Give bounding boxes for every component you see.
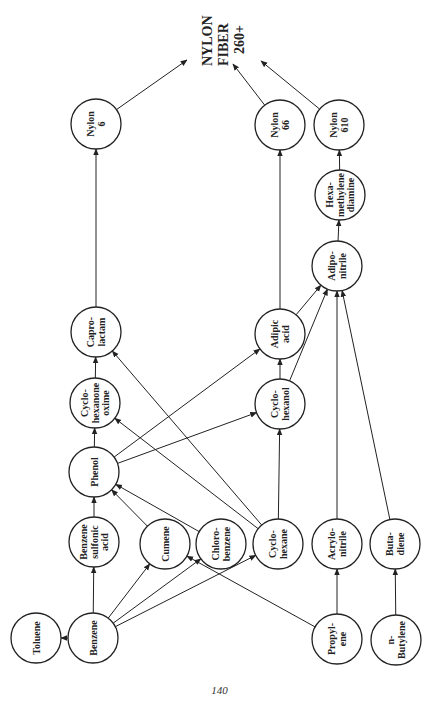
node-label-line: Nylon (328, 112, 339, 138)
node-label-line: Benzene (88, 620, 99, 656)
node-label-line: 610 (339, 118, 350, 133)
node-nylon610: Nylon610 (314, 100, 364, 150)
node-label-line: Cyclo- (267, 530, 278, 558)
title-line-3: 260+ (232, 25, 247, 54)
arrow-cyclohexane-to-cyclohexanol (278, 429, 279, 519)
node-phenol: Phenol (69, 447, 119, 497)
node-label-line: 6 (96, 122, 107, 127)
node-cyclohexanoneoxime: Cyclo-hexanoneoxime (70, 378, 120, 428)
node-chlorobenzene: Chloro-benzene (196, 519, 246, 569)
node-label-line: Toluene (31, 621, 42, 655)
node-cyclohexanol: Cyclo-hexanol (255, 379, 305, 429)
node-acrylonitrile: Acrylo-nitrile (312, 519, 362, 569)
node-label-line: Propyl- (326, 623, 337, 655)
node-label-line: nitrile (337, 530, 348, 557)
node-label-line: Benzene (78, 524, 89, 560)
node-label-line: hexanol (280, 387, 291, 421)
node-label-line: Capro- (85, 317, 96, 347)
node-toluene: Toluene (11, 613, 61, 663)
node-label-line: acid (280, 325, 291, 343)
arrow-phenol-to-adipicacid (114, 349, 260, 457)
node-adipicacid: Adipicacid (255, 309, 305, 359)
node-butadiene: Buta-diene (370, 519, 420, 569)
arrow-cumene-to-phenol (112, 490, 148, 526)
nylon-fiber-title: NYLON FIBER 260+ (200, 15, 247, 66)
arrow-benzene-to-cumene (108, 564, 150, 618)
node-label-line: 66 (280, 120, 291, 130)
arrow-benzene-to-cyclohexane (115, 555, 255, 626)
arrow-nylon66-to-fiber (233, 64, 265, 105)
node-label-line: Hexa- (324, 182, 335, 208)
node-label-line: Nylon (85, 111, 96, 137)
node-label-line: Adipo- (326, 251, 337, 280)
node-label-line: Cumene (160, 526, 171, 562)
node-label-line: Nylon (269, 112, 280, 138)
title-line-1: NYLON (200, 15, 215, 66)
arrow-adipicacid-to-adiponitrile (296, 285, 321, 315)
title-line-2: FIBER (216, 22, 231, 66)
node-cyclohexane: Cyclo-hexane (253, 519, 303, 569)
arrow-benzene-to-chlorobenzene (113, 559, 201, 623)
node-hexamethylenediamine: Hexa-methylenediamine (315, 170, 365, 220)
node-nylon6: Nylon6 (71, 99, 121, 149)
node-label-line: Phenol (89, 457, 100, 487)
node-nbutylene: n-Butylene (371, 615, 421, 665)
arrow-nylon6-to-fiber (116, 60, 187, 110)
node-label-line: Chloro- (210, 527, 221, 560)
node-label-line: acid (99, 533, 110, 551)
arrow-butadiene-to-adiponitrile (342, 290, 390, 519)
node-label-line: Acrylo- (326, 528, 337, 560)
nylon-fiber-flow-diagram: Nylon6Nylon66Nylon610Hexa-methylenediami… (0, 0, 439, 708)
node-benzenesulfonicacid: Benzenesulfonicacid (69, 517, 119, 567)
node-label-line: n- (385, 636, 396, 645)
node-label-line: oxime (100, 390, 111, 416)
node-label-line: Adipic (269, 319, 280, 348)
node-label-line: benzene (221, 526, 232, 561)
node-label-line: Butylene (396, 621, 407, 659)
node-label-line: ene (337, 631, 348, 646)
node-benzene: Benzene (68, 613, 118, 663)
node-cumene: Cumene (140, 519, 190, 569)
node-label-line: Buta- (384, 532, 395, 556)
node-label-line: nitrile (337, 252, 348, 279)
node-label-line: Cyclo- (79, 389, 90, 417)
node-nylon66: Nylon66 (255, 100, 305, 150)
node-label-line: hexane (278, 528, 289, 559)
node-label-line: hexanone (90, 382, 101, 423)
arrow-phenol-to-cyclohexanol (117, 413, 256, 464)
node-propylene: Propyl-ene (312, 614, 362, 664)
node-caprolactam: Capro-lactam (71, 307, 121, 357)
node-label-line: sulfonic (89, 525, 100, 559)
node-label-line: diamine (345, 177, 356, 212)
node-label-line: diene (395, 532, 406, 555)
arrow-adiponitrile-to-hexamethylenediamine (338, 220, 339, 241)
node-adiponitrile: Adipo-nitrile (312, 241, 362, 291)
arrow-propylene-to-cumene (187, 556, 315, 627)
node-label-line: methylene (335, 173, 346, 217)
node-label-line: lactam (96, 317, 107, 347)
arrow-cyclohexane-to-cyclohexanoneoxime (115, 418, 258, 528)
page-number: 140 (0, 684, 439, 696)
node-label-line: Cyclo- (269, 390, 280, 418)
